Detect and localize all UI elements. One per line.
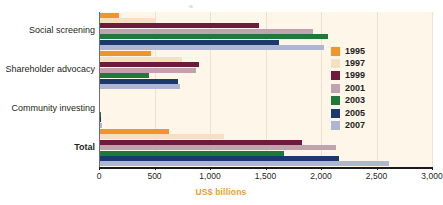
category-label-total: Total [0,142,95,152]
legend-label: 2005 [345,109,365,118]
artifact-mark [189,5,193,8]
category-label-shareholder-advocacy: Shareholder advocacy [0,64,95,74]
x-tick-label: 0 [97,171,102,181]
legend-swatch-icon [331,59,340,68]
legend-swatch-icon [331,47,340,56]
x-tick-mark [99,167,100,170]
bar [99,62,199,67]
x-tick-mark [432,167,433,170]
x-tick-label: 2,500 [366,171,387,181]
bar [99,51,151,56]
x-tick-mark [210,167,211,170]
x-tick-label: 3,000 [421,171,442,181]
legend-item-1997[interactable]: 1997 [331,57,401,69]
bar [99,156,339,161]
legend-label: 2001 [345,84,365,93]
legend-swatch-icon [331,96,340,105]
x-axis-title: US$ billions [0,187,442,197]
legend-label: 1995 [345,47,365,56]
legend-swatch-icon [331,121,340,130]
category-label-social-screening: Social screening [0,25,95,35]
bar [99,57,182,62]
x-tick-mark [155,167,156,170]
legend-item-2001[interactable]: 2001 [331,82,401,94]
bar [99,73,149,78]
x-tick-label: 1,500 [255,171,276,181]
legend-item-1995[interactable]: 1995 [331,45,401,57]
x-tick-mark [377,167,378,170]
bar [99,145,336,150]
y-axis-line [99,12,100,167]
bar [99,68,196,73]
legend-item-1999[interactable]: 1999 [331,70,401,82]
x-tick-label: 500 [147,171,161,181]
legend-item-2005[interactable]: 2005 [331,107,401,119]
bar [99,79,178,84]
bar [99,151,284,156]
bar [99,140,302,145]
legend-item-2003[interactable]: 2003 [331,95,401,107]
bar [99,34,328,39]
legend-label: 1997 [345,59,365,68]
gridline [432,12,433,167]
bar [99,29,313,34]
bar [99,129,169,134]
x-tick-label: 2,000 [310,171,331,181]
bar [99,40,279,45]
legend: 1995199719992001200320052007 [331,45,401,132]
legend-label: 2007 [345,121,365,130]
legend-swatch-icon [331,84,340,93]
legend-label: 2003 [345,96,365,105]
bar [99,18,156,23]
bar [99,45,324,50]
x-tick-mark [321,167,322,170]
bar [99,134,224,139]
bar [99,23,259,28]
legend-item-2007[interactable]: 2007 [331,119,401,131]
x-tick-label: 1,000 [199,171,220,181]
category-label-community-investing: Community investing [0,103,95,113]
bar [99,161,389,166]
bar [99,13,119,18]
legend-swatch-icon [331,109,340,118]
x-tick-mark [266,167,267,170]
bar [99,84,180,89]
legend-swatch-icon [331,71,340,80]
legend-label: 1999 [345,71,365,80]
